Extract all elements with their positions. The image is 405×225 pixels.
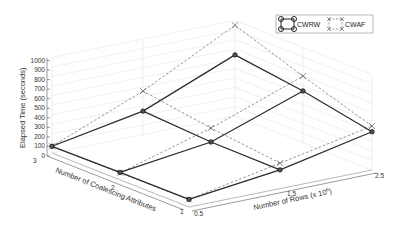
circle-marker-icon [301,89,305,93]
z-tick-label: 800 [34,76,45,83]
z-axis-label: Elapsed Time (seconds) [18,67,27,148]
series-cwaf-mesh [49,22,375,202]
circle-marker-icon [118,170,122,174]
base-plane [52,153,372,207]
y-tick-3: 3 [33,157,37,164]
legend-label-cwaf: CWAF [345,21,365,28]
z-tick-label: 300 [34,123,45,130]
circle-marker-icon [141,109,145,113]
circle-marker-icon [278,168,282,172]
z-tick-label: 900 [34,66,45,73]
z-tick-label: 200 [34,133,45,140]
legend-label-cwrw: CWRW [297,21,321,28]
z-tick-label: 600 [34,95,45,102]
z-tick-labels: 01002003004005006007008009001000 [31,57,46,160]
chart-3d-mesh: 01002003004005006007008009001000 3 2 1 0… [0,0,405,225]
legend: CWRW CWAF [276,15,373,33]
z-tick-label: 400 [34,114,45,121]
z-tick-marks [47,61,50,157]
z-gridlines [52,21,372,171]
z-tick-label: 100 [34,142,45,149]
x-marker-icon [277,160,283,166]
z-tick-label: 500 [34,104,45,111]
z-tick-label: 0 [41,152,45,159]
y-axis-line [47,156,184,210]
y-axis-label: Number of Coalescing Attributes [54,165,158,213]
z-tick-label: 700 [34,85,45,92]
z-tick-label: 1000 [31,57,46,64]
circle-marker-icon [233,53,237,57]
back-wall-grid [52,20,372,170]
circle-marker-icon [50,144,54,148]
x-marker-icon [208,125,214,131]
x-tick-2-5: 2.5 [375,172,384,179]
x-axis-label-close: ) [328,186,333,195]
circle-marker-icon [370,130,374,134]
y-tick-1: 1 [180,208,184,215]
circle-marker-icon [187,197,191,201]
circle-marker-icon [209,140,213,144]
x-tick-0-5: 0.5 [194,210,203,217]
